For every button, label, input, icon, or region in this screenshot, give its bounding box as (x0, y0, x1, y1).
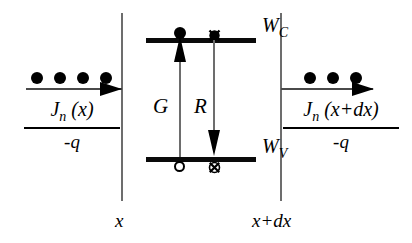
flux-right-numerator-arg: (x+dx) (319, 98, 379, 120)
flux-left-denominator: -q (24, 131, 120, 151)
flux-left-carrier-dot (31, 72, 43, 84)
flux-right-numerator: Jn (x+dx) (283, 99, 399, 126)
band-diagram-figure: WC G R WV Jn (x) -q (0, 0, 412, 243)
flux-left-numerator-arg: (x) (66, 98, 93, 120)
generation-arrow-head (174, 36, 186, 62)
generation-label: G (153, 96, 168, 117)
axis-label-x-plus-dx: x+dx (252, 211, 291, 230)
conduction-band-label: WC (262, 15, 288, 40)
flux-right-arrowhead (352, 82, 374, 96)
valence-band-line (146, 157, 256, 162)
recombination-arrow-head (208, 130, 220, 156)
flux-right-carrier-dot (327, 72, 339, 84)
flux-right-expression: Jn (x+dx) -q (283, 99, 399, 151)
conduction-band-line (146, 38, 256, 43)
flux-left-expression: Jn (x) -q (24, 99, 120, 151)
flux-left-carrier-dot (77, 72, 89, 84)
crossed-circle-valence (207, 160, 222, 173)
flux-left-numerator-main: J (50, 98, 59, 120)
recombination-arrow-shaft (213, 40, 215, 138)
axis-label-x: x (115, 211, 123, 230)
crossed-circle-icon (207, 161, 222, 174)
flux-right-fraction-bar (283, 127, 399, 129)
flux-left-numerator: Jn (x) (24, 99, 120, 126)
conduction-band-label-sub: C (279, 25, 288, 40)
recombination-label: R (194, 96, 207, 117)
valence-band-label-main: W (262, 135, 279, 157)
generation-arrow-shaft (179, 60, 181, 160)
boundary-line-x (121, 13, 123, 201)
flux-right-carrier-dot (304, 72, 316, 84)
flux-left-carrier-dot (54, 72, 66, 84)
conduction-band-label-main: W (262, 14, 279, 36)
flux-left-fraction-bar (24, 127, 120, 129)
flux-right-denominator: -q (283, 131, 399, 151)
flux-right-numerator-main: J (303, 98, 312, 120)
flux-left-arrowhead (100, 82, 122, 96)
hole-open-circle-valence (174, 161, 185, 172)
boundary-line-x-plus-dx (280, 13, 282, 201)
